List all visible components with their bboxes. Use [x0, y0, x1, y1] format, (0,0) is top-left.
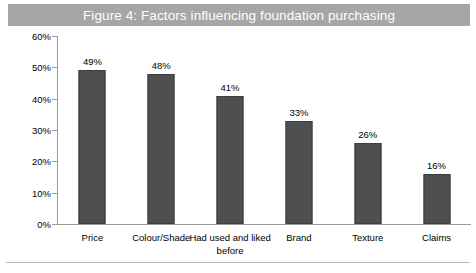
bar-value-label: 33%	[289, 107, 308, 118]
y-axis-tick-mark	[52, 130, 57, 131]
plot-area: 49%48%41%33%26%16%	[58, 36, 471, 224]
bar-value-label: 48%	[152, 60, 171, 71]
bar-group: 41%	[196, 36, 265, 224]
bar[interactable]	[79, 70, 106, 224]
y-axis-tick-mark	[52, 161, 57, 162]
bar-group: 49%	[58, 36, 127, 224]
figure-title-band: Figure 4: Factors influencing foundation…	[8, 4, 470, 26]
y-axis-tick-mark	[52, 99, 57, 100]
y-axis-tick-mark	[52, 224, 57, 225]
bar-group: 26%	[333, 36, 402, 224]
bar-group: 16%	[402, 36, 471, 224]
bar[interactable]	[148, 74, 175, 224]
y-axis-tick-labels: 0%10%20%30%40%50%60%	[18, 28, 51, 224]
page-title: Figure 4: Factors influencing foundation…	[83, 8, 395, 23]
y-axis-tick-mark	[52, 36, 57, 37]
y-axis-tick-label: 60%	[32, 31, 51, 42]
bar-group: 33%	[265, 36, 334, 224]
y-axis-tick-label: 30%	[32, 125, 51, 136]
y-axis-tick-label: 20%	[32, 156, 51, 167]
y-axis-tick-label: 40%	[32, 93, 51, 104]
y-axis-tick-label: 0%	[37, 219, 51, 230]
bar-chart: 0%10%20%30%40%50%60% 49%48%41%33%26%16% …	[0, 28, 476, 243]
bar-value-label: 41%	[221, 82, 240, 93]
bar[interactable]	[354, 143, 381, 224]
x-axis-category-label: Claims	[395, 232, 476, 245]
y-axis-tick-label: 10%	[32, 187, 51, 198]
bar-value-label: 49%	[83, 56, 102, 67]
bar-value-label: 16%	[427, 160, 446, 171]
y-axis-tick-mark	[52, 193, 57, 194]
bar-value-label: 26%	[358, 129, 377, 140]
bottom-divider	[6, 262, 470, 263]
y-axis-tick-mark	[52, 67, 57, 68]
bar-group: 48%	[127, 36, 196, 224]
y-axis-tick-label: 50%	[32, 62, 51, 73]
x-axis-line	[57, 224, 471, 225]
bar[interactable]	[285, 121, 312, 224]
bar[interactable]	[217, 96, 244, 224]
bar[interactable]	[423, 174, 450, 224]
